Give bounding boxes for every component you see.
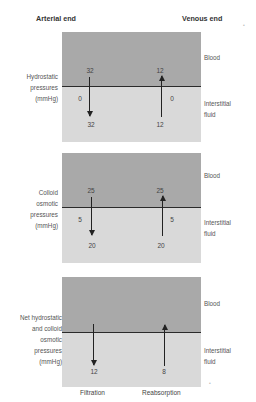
blood-label: Blood xyxy=(204,52,220,63)
net-pressure-panel xyxy=(62,277,201,387)
down-arrow-icon xyxy=(91,197,92,235)
venous-side-value: 0 xyxy=(162,95,182,102)
interstitial-fluid-label: Interstitialfluid xyxy=(204,98,231,120)
venous-end-header: Venous end xyxy=(182,14,222,23)
arterial-blood-value: 25 xyxy=(81,187,101,194)
venous-fluid-value: 12 xyxy=(150,121,170,128)
speck: • xyxy=(243,22,245,28)
filtration-value: 12 xyxy=(84,368,104,375)
reabsorption-value: 8 xyxy=(154,368,174,375)
hydrostatic-label: Hydrostaticpressures(mmHg) xyxy=(2,71,58,104)
blood-region xyxy=(62,277,201,332)
venous-side-value: 5 xyxy=(162,216,182,223)
blood-region xyxy=(62,32,201,86)
up-arrow-icon xyxy=(164,325,165,366)
venous-blood-value: 25 xyxy=(150,187,170,194)
speck: • xyxy=(209,380,211,386)
net-pressure-label: Net hydrostaticand colloidosmoticpressur… xyxy=(2,312,62,367)
venous-fluid-value: 20 xyxy=(151,242,171,249)
arterial-blood-value: 32 xyxy=(80,67,100,74)
interstitial-fluid-label: Interstitialfluid xyxy=(204,217,231,239)
colloid-osmotic-label: Colloidosmoticpressures(mmHg) xyxy=(2,187,58,231)
arterial-fluid-value: 20 xyxy=(82,242,102,249)
down-arrow-icon xyxy=(89,77,90,116)
reabsorption-label: Reabsorption xyxy=(142,389,181,396)
blood-label: Blood xyxy=(204,170,220,181)
filtration-label: Filtration xyxy=(80,389,105,396)
blood-region xyxy=(62,153,201,207)
venous-blood-value: 12 xyxy=(150,67,170,74)
down-arrow-icon xyxy=(93,324,94,365)
arterial-side-value: 5 xyxy=(75,216,85,223)
interstitial-fluid-label: Interstitialfluid xyxy=(204,345,231,367)
blood-label: Blood xyxy=(204,298,220,309)
interstitial-region xyxy=(62,333,201,387)
arterial-side-value: 0 xyxy=(75,95,85,102)
arterial-end-header: Arterial end xyxy=(36,14,76,23)
arterial-fluid-value: 32 xyxy=(81,121,101,128)
